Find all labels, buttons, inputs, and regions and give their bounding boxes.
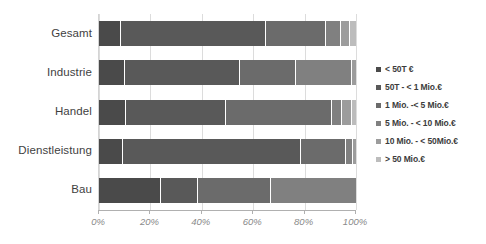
- bar-segment: [342, 100, 352, 125]
- x-axis-tick-label: 20%: [129, 216, 169, 227]
- bar-segment: [123, 139, 300, 164]
- bar-segment: [332, 100, 342, 125]
- x-axis-tick: [201, 210, 202, 214]
- bar-segment: [353, 139, 356, 164]
- bar-row: [99, 60, 356, 85]
- legend-item[interactable]: 10 Mio. - < 50Mio.€: [376, 132, 484, 150]
- bar-row: [99, 100, 356, 125]
- category-axis: GesamtIndustrieHandelDienstleistungBau: [0, 14, 92, 210]
- legend-label: > 50 Mio.€: [385, 154, 425, 164]
- x-axis-tick-label: 40%: [181, 216, 221, 227]
- category-label: Industrie: [0, 66, 92, 78]
- x-axis-tick-label: 0%: [78, 216, 118, 227]
- bar-segment: [126, 100, 226, 125]
- legend-label: < 50T €: [385, 64, 413, 74]
- legend-swatch-icon: [376, 139, 381, 144]
- x-axis-tick-label: 60%: [232, 216, 272, 227]
- bar-segment: [326, 21, 340, 46]
- bar-segment: [301, 139, 346, 164]
- bar-segment: [99, 100, 126, 125]
- bar-segment: [350, 21, 356, 46]
- bar-segment: [296, 60, 353, 85]
- bar-segment: [198, 178, 271, 203]
- plot-area: [98, 14, 355, 210]
- legend-swatch-icon: [376, 157, 381, 162]
- category-label: Gesamt: [0, 27, 92, 39]
- legend-label: 5 Mio. - < 10 Mio.€: [385, 118, 456, 128]
- legend-label: 1 Mio. -< 5 Mio.€: [385, 100, 449, 110]
- bar-row: [99, 21, 356, 46]
- bar-segment: [266, 21, 326, 46]
- x-axis-tick-label: 100%: [335, 216, 375, 227]
- x-axis-tick: [355, 210, 356, 214]
- stacked-bar-chart: GesamtIndustrieHandelDienstleistungBau 0…: [0, 0, 486, 244]
- gridline: [356, 14, 357, 210]
- chart-legend: < 50T €50T - < 1 Mio.€1 Mio. -< 5 Mio.€5…: [376, 60, 484, 168]
- category-label: Bau: [0, 183, 92, 195]
- bar-segment: [346, 139, 354, 164]
- legend-item[interactable]: 5 Mio. - < 10 Mio.€: [376, 114, 484, 132]
- bar-segment: [341, 21, 350, 46]
- x-axis-tick: [304, 210, 305, 214]
- bar-segment: [121, 21, 266, 46]
- bar-row: [99, 139, 356, 164]
- legend-item[interactable]: > 50 Mio.€: [376, 150, 484, 168]
- legend-swatch-icon: [376, 67, 381, 72]
- bar-row: [99, 178, 356, 203]
- x-axis-tick-label: 80%: [284, 216, 324, 227]
- legend-item[interactable]: 1 Mio. -< 5 Mio.€: [376, 96, 484, 114]
- bar-segment: [99, 60, 125, 85]
- bar-segment: [352, 60, 356, 85]
- legend-swatch-icon: [376, 103, 381, 108]
- bar-segment: [99, 178, 161, 203]
- bar-segment: [99, 139, 123, 164]
- legend-label: 50T - < 1 Mio.€: [385, 82, 442, 92]
- legend-label: 10 Mio. - < 50Mio.€: [385, 136, 458, 146]
- x-axis-line: [98, 210, 356, 211]
- x-axis-tick: [149, 210, 150, 214]
- bar-segment: [99, 21, 121, 46]
- bar-segment: [271, 178, 356, 203]
- legend-item[interactable]: < 50T €: [376, 60, 484, 78]
- legend-item[interactable]: 50T - < 1 Mio.€: [376, 78, 484, 96]
- bar-segment: [125, 60, 241, 85]
- bar-segment: [226, 100, 331, 125]
- legend-swatch-icon: [376, 121, 381, 126]
- bar-segment: [352, 100, 356, 125]
- bar-segment: [240, 60, 295, 85]
- x-axis-tick: [98, 210, 99, 214]
- bar-segment: [161, 178, 198, 203]
- category-label: Dienstleistung: [0, 144, 92, 156]
- x-axis-tick: [252, 210, 253, 214]
- category-label: Handel: [0, 105, 92, 117]
- legend-swatch-icon: [376, 85, 381, 90]
